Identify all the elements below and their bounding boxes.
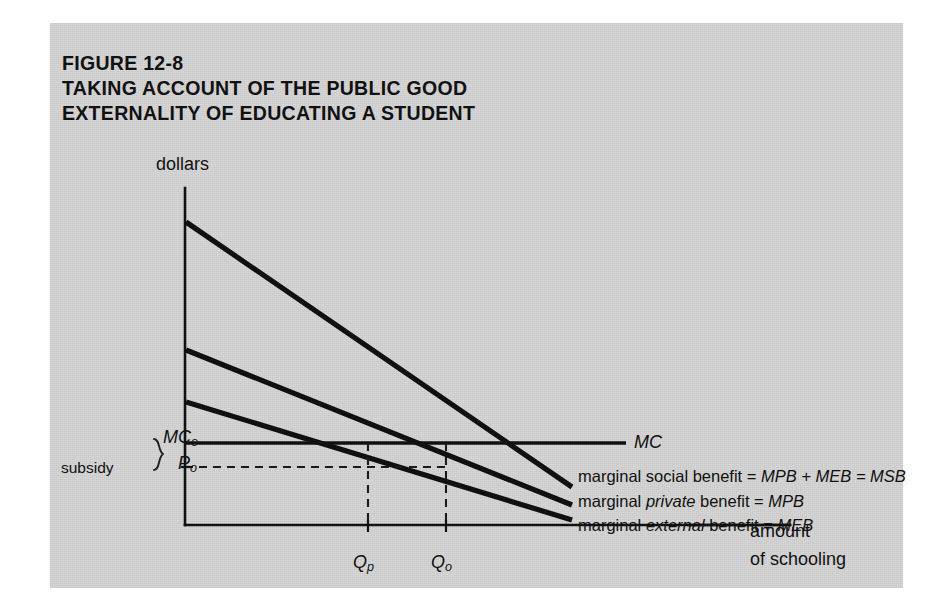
caption-meb-emphasis: external <box>646 516 705 534</box>
p0-label: Po <box>178 454 197 474</box>
qp-symbol: Q <box>353 552 367 572</box>
figure-title-line-1: TAKING ACCOUNT OF THE PUBLIC GOOD <box>62 76 475 101</box>
y-axis-label: dollars <box>156 155 209 173</box>
caption-mpb-suffix: benefit = <box>695 492 768 510</box>
qo-label: Qo <box>431 553 452 573</box>
subsidy-brace <box>154 439 163 470</box>
figure-title-block: FIGURE 12-8 TAKING ACCOUNT OF THE PUBLIC… <box>62 51 475 126</box>
curve-meb <box>186 402 572 520</box>
x-axis-label-line-2: of schooling <box>750 550 846 568</box>
curve-caption-mpb: marginal private benefit = MPB <box>578 493 804 510</box>
figure-title-line-2: EXTERNALITY OF EDUCATING A STUDENT <box>62 101 475 126</box>
subsidy-label: subsidy <box>61 460 114 476</box>
caption-mpb-prefix: marginal <box>578 492 646 510</box>
caption-msb-prefix: marginal social benefit = <box>578 467 761 485</box>
mc-curve-label: MC <box>634 433 662 451</box>
x-axis-label-line-1: amount <box>750 522 810 540</box>
mc0-subscript: o <box>191 435 198 449</box>
qp-subscript: p <box>367 560 374 574</box>
curve-mpb <box>186 350 572 505</box>
curve-caption-msb: marginal social benefit = MPB + MEB = MS… <box>578 468 906 485</box>
qo-subscript: o <box>445 560 452 574</box>
p0-subscript: o <box>190 461 197 475</box>
qo-symbol: Q <box>431 552 445 572</box>
mc0-label: MCo <box>163 428 198 448</box>
caption-mpb-emphasis: private <box>646 492 696 510</box>
mc0-symbol: MC <box>163 427 191 447</box>
caption-msb-formula: MPB + MEB = MSB <box>761 467 906 485</box>
figure-panel: FIGURE 12-8 TAKING ACCOUNT OF THE PUBLIC… <box>50 23 903 588</box>
figure-number: FIGURE 12-8 <box>62 51 475 76</box>
qp-label: Qp <box>353 553 374 573</box>
curve-msb <box>186 222 572 487</box>
p0-symbol: P <box>178 453 190 473</box>
caption-mpb-formula: MPB <box>768 492 804 510</box>
caption-meb-prefix: marginal <box>578 516 646 534</box>
